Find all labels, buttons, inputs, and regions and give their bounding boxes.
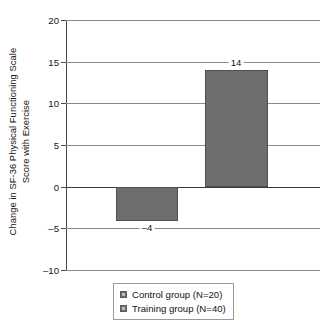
data-label-training-group: 14: [229, 57, 244, 68]
legend-item-training-group: Training group (N=40): [120, 301, 226, 315]
tick-10: [61, 103, 66, 104]
data-label-control-group: –4: [140, 222, 155, 233]
tick-minus10: [61, 270, 66, 271]
y-axis-title: Change in SF-36 Physical Functioning Sca…: [0, 0, 40, 283]
legend-swatch-icon-control-group: [120, 291, 127, 298]
legend-label-control-group: Control group (N=20): [132, 289, 222, 300]
ytick-label-0: 0: [54, 182, 59, 193]
tick-15: [61, 62, 66, 63]
gridline-minus10: [66, 270, 320, 271]
y-axis-title-line1: Change in SF-36 Physical Functioning Sca…: [7, 48, 20, 236]
gridline-5: [66, 145, 320, 146]
bar-control-group: [116, 187, 178, 221]
tick-0: [61, 187, 66, 188]
ytick-label-15: 15: [48, 57, 59, 68]
gridline-zero: [66, 187, 320, 188]
tick-5: [61, 145, 66, 146]
bar-training-group: [205, 70, 268, 187]
gridline-minus5: [66, 228, 320, 229]
ytick-label-20: 20: [48, 15, 59, 26]
ytick-label-10: 10: [48, 98, 59, 109]
ytick-label-minus10: –10: [43, 265, 59, 276]
gridline-20: [66, 20, 320, 21]
legend-item-control-group: Control group (N=20): [120, 287, 226, 301]
y-axis-title-line2: Score with Exercise: [20, 48, 33, 236]
gridline-15: [66, 62, 320, 63]
tick-minus5: [61, 228, 66, 229]
gridline-10: [66, 103, 320, 104]
ytick-label-5: 5: [54, 140, 59, 151]
bar-chart-figure: Change in SF-36 Physical Functioning Sca…: [0, 0, 327, 323]
ytick-label-minus5: –5: [48, 223, 59, 234]
legend-label-training-group: Training group (N=40): [132, 303, 226, 314]
legend-swatch-icon-training-group: [120, 305, 127, 312]
plot-area: 20 15 10 5 0 –5 –10 –4 14: [66, 20, 320, 270]
tick-20: [61, 20, 66, 21]
chart-legend: Control group (N=20) Training group (N=4…: [113, 283, 234, 320]
